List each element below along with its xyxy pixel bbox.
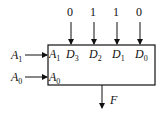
d3-label: D3 xyxy=(66,48,79,63)
d2-label: D2 xyxy=(89,48,102,63)
a1-external-label: A1 xyxy=(11,49,22,64)
a0-external-label: A0 xyxy=(11,71,22,86)
d0-value: 0 xyxy=(136,6,142,18)
a1-internal-label: A1 xyxy=(49,48,60,63)
d1-label: D1 xyxy=(112,48,125,63)
d0-label: D0 xyxy=(135,48,148,63)
d3-value: 0 xyxy=(67,6,73,18)
output-label: F xyxy=(110,94,117,106)
a0-internal-label: A0 xyxy=(49,71,60,86)
d1-value: 1 xyxy=(113,6,119,18)
d2-value: 1 xyxy=(90,6,96,18)
